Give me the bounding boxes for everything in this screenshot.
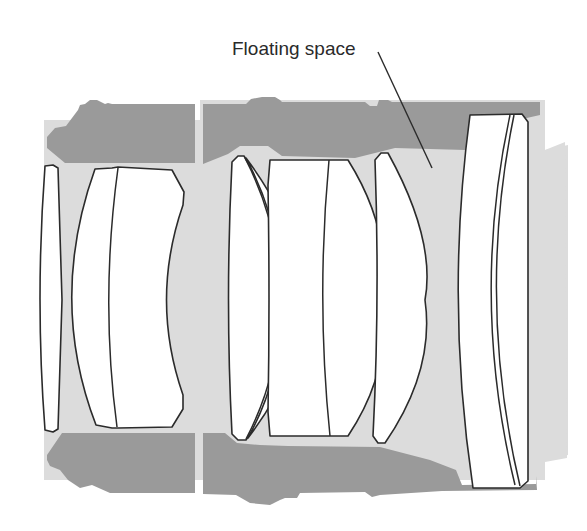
rear-cemented-group: [458, 114, 528, 488]
floating-space-label: Floating space: [232, 38, 356, 59]
lens-cross-section-diagram: Floating space: [0, 0, 587, 531]
barrel-lower-front: [47, 433, 195, 493]
front-cemented-doublet: [72, 167, 184, 428]
front-element: [40, 165, 62, 432]
barrel-upper-front: [47, 100, 195, 163]
